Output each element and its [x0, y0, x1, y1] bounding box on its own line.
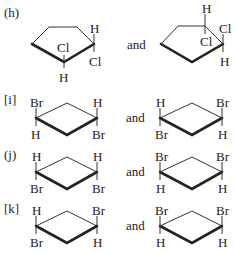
atom-label: H [156, 95, 165, 110]
atom-label: H [31, 127, 40, 142]
atom-label: H [90, 21, 99, 36]
atom-label: Br [92, 181, 106, 196]
atom-label: Br [30, 95, 44, 110]
problem-label: (j) [4, 147, 16, 162]
atom-label: H [220, 54, 229, 69]
atom-label: Br [216, 95, 230, 110]
problem-label: (h) [4, 5, 19, 20]
problem-k: [k] H Br Br H and Br H Br H [4, 201, 230, 250]
connector-and: and [126, 110, 145, 125]
atom-label: H [93, 149, 102, 164]
problem-label: [k] [4, 201, 19, 216]
problem-label: [i] [4, 92, 16, 107]
atom-label: H [218, 235, 227, 250]
right-cyclohexane: Br H Br H [155, 203, 230, 250]
atom-label: Cl [219, 21, 232, 36]
atom-label: Br [216, 203, 230, 218]
stereochemistry-diagram: (h) H Cl H Cl and H Cl Cl H [0, 0, 235, 253]
right-cyclopentane: H Cl Cl H [161, 1, 232, 69]
atom-label: H [218, 127, 227, 142]
atom-label: H [156, 235, 165, 250]
connector-and: and [127, 37, 146, 52]
atom-label: Cl [57, 40, 70, 55]
atom-label: H [93, 95, 102, 110]
left-cyclopentane: H Cl H Cl [32, 21, 102, 85]
atom-label: Br [155, 203, 169, 218]
right-cyclohexane: Br H Br H [155, 149, 230, 196]
atom-label: Cl [200, 34, 213, 49]
atom-label: H [59, 70, 68, 85]
atom-label: H [32, 203, 41, 218]
atom-label: H [93, 235, 102, 250]
atom-label: Br [216, 149, 230, 164]
atom-label: H [218, 181, 227, 196]
left-cyclohexane: H Br Br H [30, 203, 106, 250]
atom-label: H [156, 181, 165, 196]
atom-label: Br [155, 149, 169, 164]
right-cyclohexane: H Br Br H [155, 95, 230, 142]
problem-i: [i] Br H H Br and H Br Br H [4, 92, 230, 142]
atom-label: Cl [89, 54, 102, 69]
atom-label: Br [30, 235, 44, 250]
atom-label: Br [155, 127, 169, 142]
atom-label: Br [92, 203, 106, 218]
left-cyclohexane: Br H H Br [30, 95, 106, 142]
connector-and: and [126, 218, 145, 233]
connector-and: and [126, 164, 145, 179]
atom-label: Br [92, 127, 106, 142]
left-cyclohexane: H Br H Br [30, 149, 106, 196]
atom-label: H [32, 149, 41, 164]
problem-h: (h) H Cl H Cl and H Cl Cl H [4, 1, 232, 85]
atom-label: H [202, 1, 211, 16]
atom-label: Br [30, 181, 44, 196]
problem-j: (j) H Br H Br and Br H Br H [4, 147, 230, 196]
